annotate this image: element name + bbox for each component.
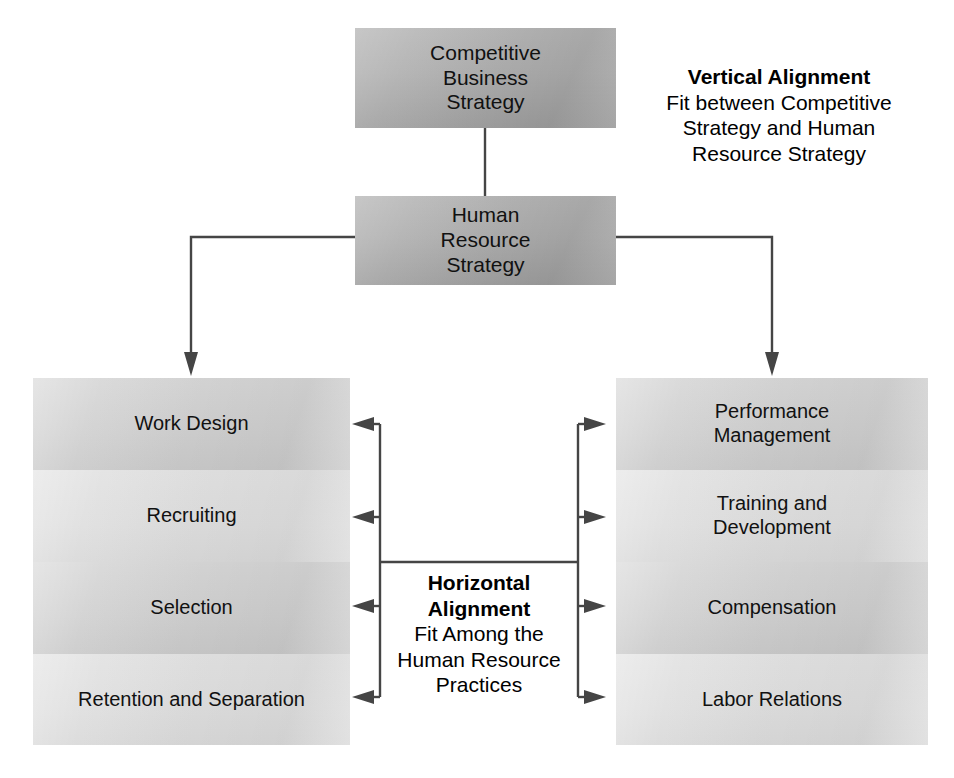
connector-left-bus bbox=[352, 417, 380, 704]
node-training-and-development[interactable]: Training and Development bbox=[616, 470, 928, 562]
callout-horizontal-alignment-line2: Human Resource bbox=[390, 647, 568, 673]
connector-right-bus bbox=[578, 417, 606, 704]
node-training-and-development-line2: Development bbox=[713, 516, 831, 540]
callout-vertical-alignment-line3: Resource Strategy bbox=[648, 141, 910, 167]
node-performance-management-line2: Management bbox=[714, 424, 831, 448]
node-human-resource-strategy-line3: Strategy bbox=[441, 253, 531, 278]
node-compensation[interactable]: Compensation bbox=[616, 562, 928, 654]
connector-hr-to-right-column bbox=[616, 237, 779, 376]
connector-hr-to-left-column bbox=[184, 237, 355, 376]
hr-strategy-alignment-diagram: Competitive Business Strategy Vertical A… bbox=[0, 0, 954, 778]
callout-horizontal-alignment-heading-line1: Horizontal bbox=[390, 570, 568, 596]
node-competitive-business-strategy-line2: Business bbox=[430, 66, 541, 91]
node-human-resource-strategy-line2: Resource bbox=[441, 228, 531, 253]
callout-vertical-alignment-line1: Fit between Competitive bbox=[648, 90, 910, 116]
callout-vertical-alignment-heading: Vertical Alignment bbox=[648, 64, 910, 90]
node-performance-management[interactable]: Performance Management bbox=[616, 378, 928, 470]
node-competitive-business-strategy-line3: Strategy bbox=[430, 90, 541, 115]
node-competitive-business-strategy-line1: Competitive bbox=[430, 41, 541, 66]
node-retention-and-separation[interactable]: Retention and Separation bbox=[33, 654, 350, 745]
callout-horizontal-alignment-line1: Fit Among the bbox=[390, 621, 568, 647]
node-recruiting[interactable]: Recruiting bbox=[33, 470, 350, 562]
node-work-design[interactable]: Work Design bbox=[33, 378, 350, 470]
node-human-resource-strategy-line1: Human bbox=[441, 203, 531, 228]
node-recruiting-label: Recruiting bbox=[146, 504, 236, 528]
callout-horizontal-alignment-line3: Practices bbox=[390, 672, 568, 698]
node-labor-relations-label: Labor Relations bbox=[702, 688, 842, 712]
callout-vertical-alignment-line2: Strategy and Human bbox=[648, 115, 910, 141]
node-performance-management-line1: Performance bbox=[714, 400, 831, 424]
callout-horizontal-alignment: Horizontal Alignment Fit Among the Human… bbox=[390, 570, 568, 698]
callout-vertical-alignment: Vertical Alignment Fit between Competiti… bbox=[648, 64, 910, 166]
node-work-design-label: Work Design bbox=[134, 412, 248, 436]
node-selection-label: Selection bbox=[150, 596, 232, 620]
node-labor-relations[interactable]: Labor Relations bbox=[616, 654, 928, 745]
node-training-and-development-line1: Training and bbox=[713, 492, 831, 516]
node-selection[interactable]: Selection bbox=[33, 562, 350, 654]
node-compensation-label: Compensation bbox=[708, 596, 837, 620]
node-human-resource-strategy[interactable]: Human Resource Strategy bbox=[355, 196, 616, 285]
callout-horizontal-alignment-heading-line2: Alignment bbox=[390, 596, 568, 622]
node-competitive-business-strategy[interactable]: Competitive Business Strategy bbox=[355, 28, 616, 128]
node-retention-and-separation-label: Retention and Separation bbox=[78, 688, 305, 712]
